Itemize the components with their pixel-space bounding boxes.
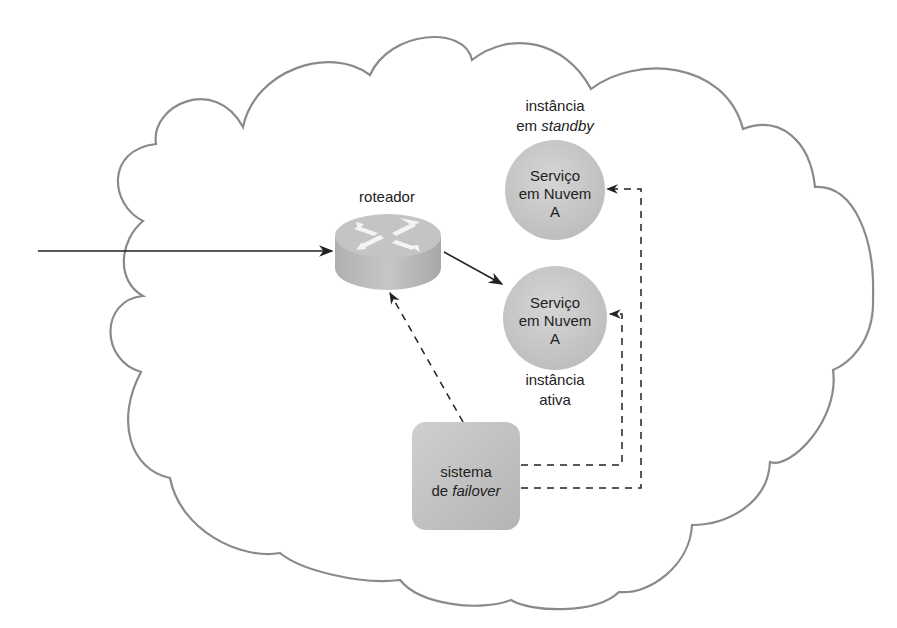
active-service-label-line2: em Nuvem	[519, 312, 592, 329]
failover-label-line1: sistema	[440, 463, 492, 480]
standby-caption-line1: instância	[525, 97, 585, 114]
router-label: roteador	[359, 188, 415, 205]
standby-service-label-line2: em Nuvem	[519, 185, 592, 202]
router-node[interactable]: roteador	[335, 188, 441, 290]
standby-service-label-line1: Serviço	[530, 167, 580, 184]
standby-service-node[interactable]: Serviço em Nuvem A instância em standby	[505, 97, 605, 240]
failover-system-node[interactable]: sistema de failover	[412, 422, 520, 530]
active-service-node[interactable]: Serviço em Nuvem A instância ativa	[503, 266, 607, 408]
router-top	[335, 214, 441, 258]
active-service-label-line1: Serviço	[530, 294, 580, 311]
standby-caption-prefix: em	[516, 117, 541, 134]
active-service-label-line3: A	[550, 330, 560, 347]
failover-label-line2: de failover	[431, 482, 501, 499]
failover-label-prefix: de	[431, 482, 452, 499]
failover-label-italic: failover	[452, 482, 501, 499]
failover-diagram: roteador Serviço em Nuvem A instância em…	[0, 0, 897, 628]
standby-caption-line2: em standby	[516, 117, 595, 134]
router-to-active-arrow	[444, 252, 502, 284]
standby-caption-italic: standby	[541, 117, 595, 134]
standby-service-label-line3: A	[550, 203, 560, 220]
active-caption-line2: ativa	[539, 391, 571, 408]
active-caption-line1: instância	[525, 371, 585, 388]
failover-to-router-arrow	[390, 293, 463, 422]
